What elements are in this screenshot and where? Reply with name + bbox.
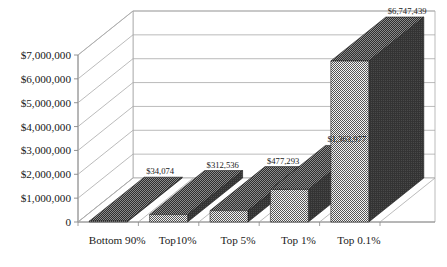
y-axis-tick-label: 0 [65,216,71,228]
x-axis-category-label: Top 1% [281,234,316,246]
y-axis-tick-labels: 0$1,000,000$2,000,000$3,000,000$4,000,00… [21,49,72,228]
y-axis-tick-label: $6,000,000 [21,73,72,85]
bar-value-label: $312,536 [207,160,240,170]
bar-front-face [210,211,248,222]
y-axis-tick-label: $4,000,000 [21,121,72,133]
bar-front-face [89,221,127,222]
bar-value-label: $6,747,439 [388,6,427,16]
bar-value-label: $477,293 [267,156,299,166]
x-axis-category-label: Top10% [159,234,197,246]
y-axis-tick-label: $3,000,000 [21,144,72,156]
bar-value-label: $1,363,977 [327,134,366,144]
y-axis-tick-label: $2,000,000 [21,168,72,180]
bar-chart-3d: 0$1,000,000$2,000,000$3,000,000$4,000,00… [0,0,447,267]
bar-front-face [270,189,308,222]
bar-front-face [150,215,188,222]
chart-container: 0$1,000,000$2,000,000$3,000,000$4,000,00… [0,0,447,267]
x-axis-category-label: Bottom 90% [89,234,146,246]
y-axis-tick-label: $1,000,000 [21,192,72,204]
y-axis-tick-label: $7,000,000 [21,49,72,61]
y-axis-tick-label: $5,000,000 [21,97,72,109]
x-axis-category-labels: Bottom 90%Top10%Top 5%Top 1%Top 0.1% [78,222,380,246]
x-axis-category-label: Top 0.1% [337,234,380,246]
x-axis-category-label: Top 5% [221,234,256,246]
bar-value-label: $34,074 [146,166,175,176]
